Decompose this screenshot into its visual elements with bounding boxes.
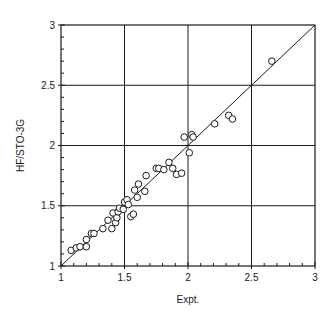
data-points	[68, 58, 275, 254]
data-point	[100, 225, 107, 232]
data-point	[166, 159, 173, 166]
data-point	[229, 116, 236, 123]
data-point	[269, 58, 276, 65]
data-point	[91, 230, 98, 237]
data-point	[114, 215, 121, 222]
data-point	[178, 170, 185, 177]
data-point	[143, 172, 150, 179]
scatter-chart: 11.522.53 11.522.53 Expt. HF/STO-3G	[0, 0, 336, 321]
data-point	[142, 188, 149, 195]
x-axis-label: Expt.	[177, 294, 200, 305]
y-tick-label: 3	[49, 20, 55, 31]
data-point	[161, 166, 168, 173]
data-point	[181, 134, 188, 141]
data-point	[125, 201, 132, 208]
x-tick-label: 1.5	[118, 272, 132, 283]
y-tick-label: 2	[49, 140, 55, 151]
x-tick-label: 2	[185, 272, 191, 283]
data-point	[83, 236, 90, 243]
x-tick-label: 3	[312, 272, 318, 283]
data-point	[190, 134, 197, 141]
data-point	[135, 181, 142, 188]
y-axis-label: HF/STO-3G	[15, 119, 26, 172]
data-point	[211, 121, 218, 128]
data-point	[131, 187, 138, 194]
x-tick-label: 1	[58, 272, 64, 283]
data-point	[83, 243, 90, 250]
data-point	[134, 194, 141, 201]
y-tick-label: 1	[49, 261, 55, 272]
x-tick-label: 2.5	[245, 272, 259, 283]
x-tick-labels: 11.522.53	[58, 272, 318, 283]
data-point	[130, 211, 137, 218]
y-tick-label: 2.5	[41, 80, 55, 91]
data-point	[105, 217, 112, 224]
data-point	[169, 165, 176, 172]
data-point	[109, 225, 116, 232]
data-point	[186, 149, 193, 156]
y-tick-label: 1.5	[41, 200, 55, 211]
data-point	[77, 243, 84, 250]
y-tick-labels: 11.522.53	[41, 20, 55, 272]
